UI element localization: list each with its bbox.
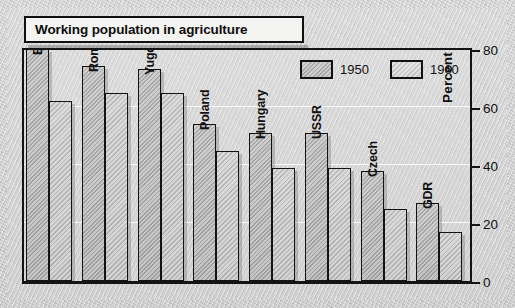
y-tick-label-40: 40: [483, 159, 498, 174]
y-tick-label-0: 0: [483, 275, 491, 290]
bar-gdr-1960[interactable]: [439, 232, 462, 281]
chart-title-bar: Working population in agriculture: [24, 16, 304, 43]
page-title: Working population in agriculture: [26, 22, 247, 37]
bar-label-romania: Romania: [87, 48, 101, 72]
plot-area: BulgariaRomaniaYugoslaviaPolandHungaryUS…: [22, 48, 472, 284]
bar-label-czech: Czech: [366, 141, 380, 177]
bar-poland-1960[interactable]: [216, 151, 239, 282]
y-axis-title: Percent: [440, 52, 455, 103]
bar-hungary-1950[interactable]: [249, 133, 272, 281]
y-tick: [472, 108, 480, 110]
bar-romania-1960[interactable]: [105, 93, 128, 282]
legend-label-1950: 1950: [340, 62, 369, 77]
bar-label-yugoslavia: Yugoslavia: [143, 48, 157, 75]
bar-yugoslavia-1950[interactable]: [138, 69, 161, 281]
y-tick: [472, 282, 480, 284]
y-tick-label-60: 60: [483, 101, 498, 116]
bar-czech-1960[interactable]: [384, 209, 407, 282]
bar-label-poland: Poland: [198, 90, 212, 130]
gridline: [24, 48, 470, 49]
y-axis: 020406080: [472, 48, 515, 288]
bar-hungary-1960[interactable]: [272, 168, 295, 281]
y-tick: [472, 166, 480, 168]
bar-bulgaria-1960[interactable]: [49, 101, 72, 281]
y-tick: [472, 50, 480, 52]
bar-label-ussr: USSR: [310, 105, 324, 139]
bar-label-hungary: Hungary: [254, 90, 268, 139]
bar-label-bulgaria: Bulgaria: [31, 48, 45, 55]
bar-gdr-1950[interactable]: [416, 203, 439, 281]
legend-swatch-1950: [300, 60, 333, 79]
bar-bulgaria-1950[interactable]: [26, 49, 49, 281]
bar-label-gdr: GDR: [421, 182, 435, 209]
y-tick-label-80: 80: [483, 43, 498, 58]
y-tick-label-20: 20: [483, 217, 498, 232]
y-tick: [472, 224, 480, 226]
bar-ussr-1950[interactable]: [305, 133, 328, 281]
bar-poland-1950[interactable]: [193, 124, 216, 281]
bar-romania-1950[interactable]: [82, 66, 105, 281]
bar-czech-1950[interactable]: [361, 171, 384, 281]
legend-swatch-1960: [390, 60, 423, 79]
bar-ussr-1960[interactable]: [328, 168, 351, 281]
bar-yugoslavia-1960[interactable]: [161, 93, 184, 282]
